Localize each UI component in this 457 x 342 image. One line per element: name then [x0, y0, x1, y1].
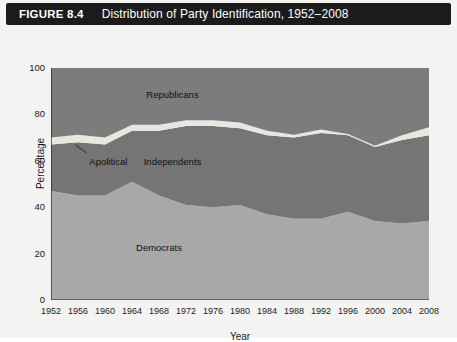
area-series-group — [51, 68, 429, 300]
plot-area: RepublicansIndependentsApoliticalDemocra… — [51, 68, 429, 300]
chart-panel: Percentage Year 020406080100 19521956196… — [6, 28, 451, 333]
figure-number-label: FIGURE 8.4 — [19, 8, 84, 20]
area-label-independents: Independents — [144, 156, 202, 167]
y-tick-label: 100 — [19, 62, 45, 73]
area-label-democrats: Democrats — [136, 242, 182, 253]
y-tick-label: 20 — [19, 248, 45, 259]
x-axis-title: Year — [51, 331, 429, 342]
figure-title-bar: FIGURE 8.4 Distribution of Party Identif… — [6, 3, 451, 25]
figure-title-text: Distribution of Party Identification, 19… — [102, 7, 349, 21]
y-tick-label: 40 — [19, 201, 45, 212]
area-label-apolitical: Apolitical — [89, 156, 127, 167]
y-tick-label: 80 — [19, 108, 45, 119]
stacked-area-chart — [51, 68, 429, 300]
y-tick-label: 0 — [19, 294, 45, 305]
y-tick-label: 60 — [19, 155, 45, 166]
x-tick-label: 2008 — [413, 306, 445, 316]
area-label-republicans: Republicans — [146, 89, 198, 100]
